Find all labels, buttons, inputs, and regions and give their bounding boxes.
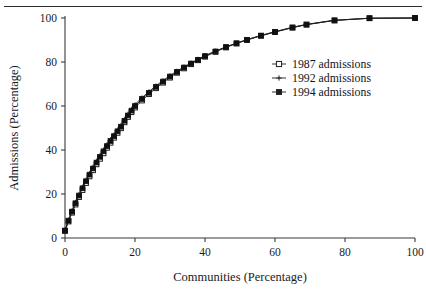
data-point-marker bbox=[273, 29, 278, 34]
data-point-marker bbox=[224, 45, 229, 50]
data-point-marker bbox=[115, 129, 120, 134]
data-point-marker bbox=[276, 75, 281, 80]
data-point-marker bbox=[84, 179, 89, 184]
chart-canvas: 020406080100020406080100 1987 admissions… bbox=[0, 0, 426, 291]
data-point-marker bbox=[154, 84, 159, 89]
legend-item-1992: 1992 admissions bbox=[272, 71, 371, 85]
data-point-marker bbox=[87, 172, 92, 177]
data-point-marker bbox=[101, 149, 106, 154]
x-axis-tick-label: 80 bbox=[339, 246, 351, 258]
x-axis-tick-label: 0 bbox=[62, 246, 68, 258]
data-point-marker bbox=[91, 166, 96, 171]
data-point-marker bbox=[98, 154, 103, 159]
data-point-marker bbox=[234, 41, 239, 46]
series-line bbox=[65, 18, 415, 231]
data-point-marker bbox=[133, 104, 138, 109]
y-axis-tick-label: 100 bbox=[40, 12, 58, 24]
y-axis-tick-label: 40 bbox=[46, 144, 58, 156]
data-point-marker bbox=[80, 186, 85, 191]
data-point-marker bbox=[140, 97, 145, 102]
data-point-marker bbox=[189, 61, 194, 66]
data-point-marker bbox=[196, 57, 201, 62]
data-point-marker bbox=[367, 16, 372, 21]
data-point-marker bbox=[259, 33, 264, 38]
data-point-marker bbox=[276, 61, 281, 66]
data-point-marker bbox=[119, 124, 124, 129]
series-1987 bbox=[63, 16, 418, 234]
data-point-marker bbox=[161, 79, 166, 84]
data-point-marker bbox=[213, 49, 218, 54]
data-point-marker bbox=[126, 113, 131, 118]
chart-figure: 020406080100020406080100 1987 admissions… bbox=[0, 0, 426, 291]
data-point-marker bbox=[63, 228, 68, 233]
data-point-marker bbox=[77, 193, 82, 198]
data-point-marker bbox=[203, 54, 208, 59]
y-axis-tick-label: 0 bbox=[51, 232, 57, 244]
series-line bbox=[65, 18, 415, 231]
data-point-marker bbox=[304, 22, 309, 27]
x-axis-tick-label: 60 bbox=[269, 246, 281, 258]
x-axis-tick-label: 40 bbox=[199, 246, 211, 258]
data-point-marker bbox=[332, 18, 337, 23]
data-point-marker bbox=[112, 134, 117, 139]
y-axis-tick-label: 20 bbox=[46, 188, 58, 200]
data-point-marker bbox=[413, 16, 418, 21]
data-point-marker bbox=[108, 139, 113, 144]
data-point-marker bbox=[168, 74, 173, 79]
y-axis-title: Admissions (Percentage) bbox=[7, 65, 21, 190]
series-1992 bbox=[63, 16, 418, 233]
legend-label: 1992 admissions bbox=[292, 71, 371, 85]
legend-item-1994: 1994 admissions bbox=[272, 85, 371, 99]
data-point-marker bbox=[66, 218, 71, 223]
data-point-marker bbox=[182, 65, 187, 70]
data-point-marker bbox=[129, 108, 134, 113]
data-point-marker bbox=[245, 37, 250, 42]
x-axis-tick-label: 20 bbox=[129, 246, 141, 258]
series-1994 bbox=[63, 16, 418, 233]
legend-group: 1987 admissions1992 admissions1994 admis… bbox=[272, 57, 371, 99]
series-group bbox=[63, 16, 418, 234]
series-line bbox=[65, 18, 415, 230]
data-point-marker bbox=[290, 25, 295, 30]
data-point-marker bbox=[73, 201, 78, 206]
y-axis-tick-label: 80 bbox=[46, 56, 58, 68]
axes-group: 020406080100020406080100 bbox=[40, 12, 424, 258]
y-axis-tick-label: 60 bbox=[46, 100, 58, 112]
legend-label: 1994 admissions bbox=[292, 85, 371, 99]
legend-item-1987: 1987 admissions bbox=[272, 57, 371, 71]
data-point-marker bbox=[70, 209, 75, 214]
data-point-marker bbox=[276, 89, 281, 94]
axis-titles-group: Communities (Percentage)Admissions (Perc… bbox=[7, 65, 307, 284]
x-axis-tick-label: 100 bbox=[406, 246, 424, 258]
x-axis-title: Communities (Percentage) bbox=[173, 270, 307, 284]
data-point-marker bbox=[147, 90, 152, 95]
data-point-marker bbox=[94, 160, 99, 165]
data-point-marker bbox=[105, 144, 110, 149]
legend-label: 1987 admissions bbox=[292, 57, 371, 71]
data-point-marker bbox=[175, 70, 180, 75]
data-point-marker bbox=[122, 118, 127, 123]
